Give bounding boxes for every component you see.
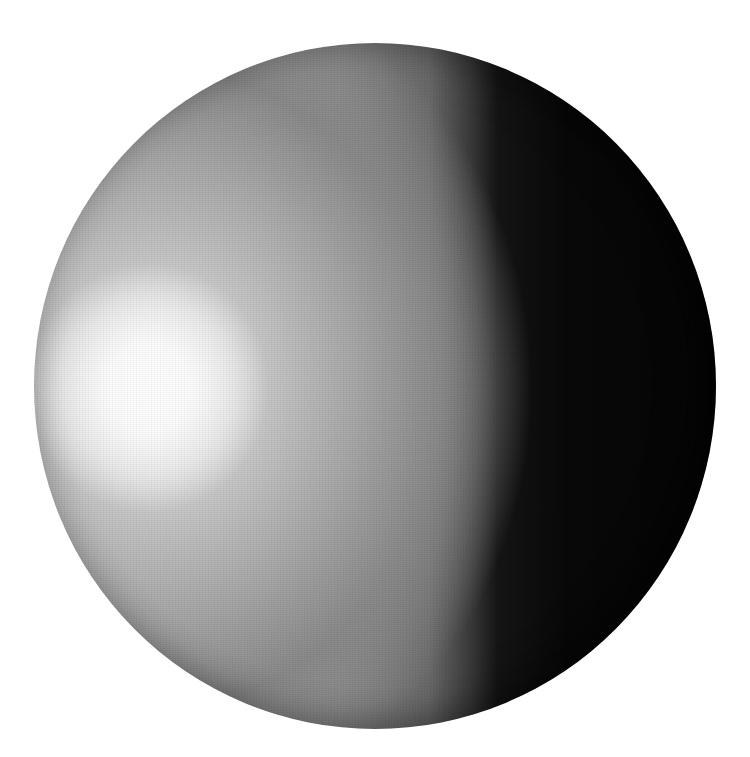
image-canvas xyxy=(0,0,750,757)
sphere-rim-shadow xyxy=(34,43,716,729)
shaded-sphere xyxy=(34,43,716,729)
